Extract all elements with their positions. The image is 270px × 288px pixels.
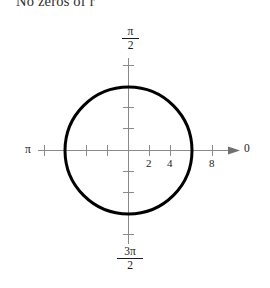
x-tick-label-4: 4 <box>167 157 173 169</box>
three-half-pi-numerator: 3π <box>117 246 143 258</box>
polar-label-half-pi: π 2 <box>122 26 139 52</box>
x-axis-arrow <box>228 147 240 155</box>
half-pi-denominator: 2 <box>122 40 139 52</box>
polar-label-zero: 0 <box>244 142 250 154</box>
half-pi-numerator: π <box>122 26 139 38</box>
three-half-pi-denominator: 2 <box>117 260 143 272</box>
polar-label-pi: π <box>25 143 31 155</box>
axes-group <box>38 58 234 244</box>
figure-container: No zeros of r <box>0 0 270 288</box>
polar-label-three-half-pi: 3π 2 <box>117 246 143 272</box>
x-tick-label-8: 8 <box>209 157 215 169</box>
x-tick-label-2: 2 <box>146 157 152 169</box>
